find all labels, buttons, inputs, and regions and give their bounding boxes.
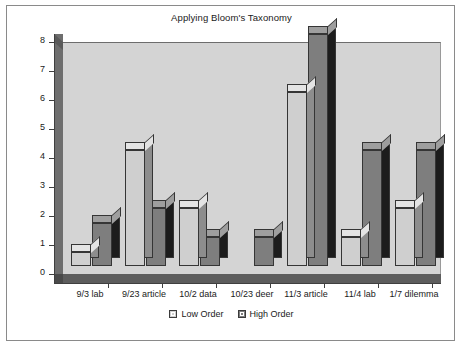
- bar-group: [387, 42, 441, 274]
- y-axis-tick: 4: [49, 158, 54, 159]
- x-axis-label: 9/23 article: [122, 289, 166, 299]
- bar-side-face: [307, 84, 315, 258]
- x-axis-tick: [162, 283, 163, 288]
- y-tick-mark: [49, 71, 54, 72]
- y-tick-mark: [49, 158, 54, 159]
- x-axis-label: 11/3 article: [284, 289, 327, 299]
- bar-side-face: [382, 142, 390, 258]
- y-tick-mark: [49, 129, 54, 130]
- bar-top-face: [92, 215, 112, 223]
- y-axis-title: Number of Questions: [13, 5, 27, 56]
- bar-top-face: [287, 84, 307, 92]
- y-tick-mark: [49, 274, 54, 275]
- bar-side-face: [415, 200, 423, 258]
- bar-low-order: [395, 208, 415, 266]
- x-axis-label: 11/4 lab: [344, 289, 375, 299]
- plot-floor: [54, 274, 441, 283]
- plot-area: 012345678: [63, 42, 441, 274]
- bar-low-order: [341, 237, 361, 266]
- chart-figure: Applying Bloom's Taxonomy Number of Ques…: [6, 5, 455, 341]
- x-axis-labels: 9/3 lab9/23 article10/2 data10/23 deer11…: [54, 289, 446, 303]
- y-axis-tick: 3: [49, 187, 54, 188]
- bar-side-face: [145, 142, 153, 258]
- legend-label-low-order: Low Order: [181, 309, 223, 319]
- chart-legend: Low Order High Order: [7, 309, 455, 319]
- bar-side-face: [166, 200, 174, 258]
- bar-side-face: [436, 142, 444, 258]
- y-axis-tick: 5: [49, 129, 54, 130]
- legend-swatch-high-order: [238, 310, 246, 318]
- bar-group: [63, 42, 117, 274]
- bar-group: [279, 42, 333, 274]
- bar-front-face: [125, 150, 145, 266]
- bar-side-face: [328, 26, 336, 258]
- y-tick-mark: [49, 100, 54, 101]
- legend-item-high-order: High Order: [238, 309, 294, 319]
- chart-title: Applying Bloom's Taxonomy: [7, 12, 455, 23]
- x-axis-tick: [270, 283, 271, 288]
- bar-top-face: [308, 26, 328, 34]
- y-tick-label: 7: [40, 64, 45, 74]
- y-axis-tick: 0: [49, 274, 54, 275]
- plot-floor-corner: [54, 274, 63, 283]
- y-tick-label: 5: [40, 122, 45, 132]
- x-axis-tick: [324, 283, 325, 288]
- bar-front-face: [395, 208, 415, 266]
- bar-top-face: [179, 200, 199, 208]
- bar-side-face: [199, 200, 207, 258]
- x-axis-tick: [108, 283, 109, 288]
- x-axis-tick: [378, 283, 379, 288]
- y-tick-label: 6: [40, 93, 45, 103]
- y-tick-mark: [49, 216, 54, 217]
- y-axis-tick: 7: [49, 71, 54, 72]
- bar-group: [171, 42, 225, 274]
- bar-low-order: [71, 252, 91, 267]
- y-axis-tick: 8: [49, 42, 54, 43]
- bar-front-face: [71, 252, 91, 267]
- bar-group: [117, 42, 171, 274]
- bar-top-face: [395, 200, 415, 208]
- bar-low-order: [125, 150, 145, 266]
- bar-top-face: [125, 142, 145, 150]
- y-tick-label: 0: [40, 267, 45, 277]
- y-axis-tick: 6: [49, 100, 54, 101]
- bar-top-face: [254, 229, 274, 237]
- y-tick-label: 3: [40, 180, 45, 190]
- bar-group: [225, 42, 279, 274]
- y-tick-label: 2: [40, 209, 45, 219]
- y-axis-tick: 2: [49, 216, 54, 217]
- x-axis-tick: [216, 283, 217, 288]
- x-axis-label: 10/2 data: [179, 289, 217, 299]
- x-axis-label: 1/7 dilemma: [389, 289, 438, 299]
- legend-item-low-order: Low Order: [169, 309, 223, 319]
- x-axis-label: 9/3 lab: [76, 289, 103, 299]
- bar-front-face: [341, 237, 361, 266]
- y-tick-mark: [49, 42, 54, 43]
- y-axis-line: [54, 34, 55, 283]
- bar-top-face: [341, 229, 361, 237]
- bar-top-face: [416, 142, 436, 150]
- bar-low-order: [179, 208, 199, 266]
- y-tick-mark: [49, 187, 54, 188]
- bar-front-face: [179, 208, 199, 266]
- x-axis-tick: [432, 283, 433, 288]
- bar-front-face: [287, 92, 307, 266]
- x-axis-label: 10/23 deer: [230, 289, 273, 299]
- y-tick-mark: [49, 245, 54, 246]
- x-axis-line: [54, 283, 441, 284]
- y-axis-tick: 1: [49, 245, 54, 246]
- bar-low-order: [287, 92, 307, 266]
- y-tick-label: 8: [40, 35, 45, 45]
- bar-front-face: [254, 237, 274, 266]
- legend-swatch-low-order: [169, 310, 177, 318]
- bar-top-face: [362, 142, 382, 150]
- bar-group: [333, 42, 387, 274]
- plot-left-wall: [54, 34, 63, 274]
- y-tick-label: 1: [40, 238, 45, 248]
- bar-top-face: [71, 244, 91, 252]
- y-tick-label: 4: [40, 151, 45, 161]
- bar-high-order: [254, 237, 274, 266]
- legend-label-high-order: High Order: [250, 309, 294, 319]
